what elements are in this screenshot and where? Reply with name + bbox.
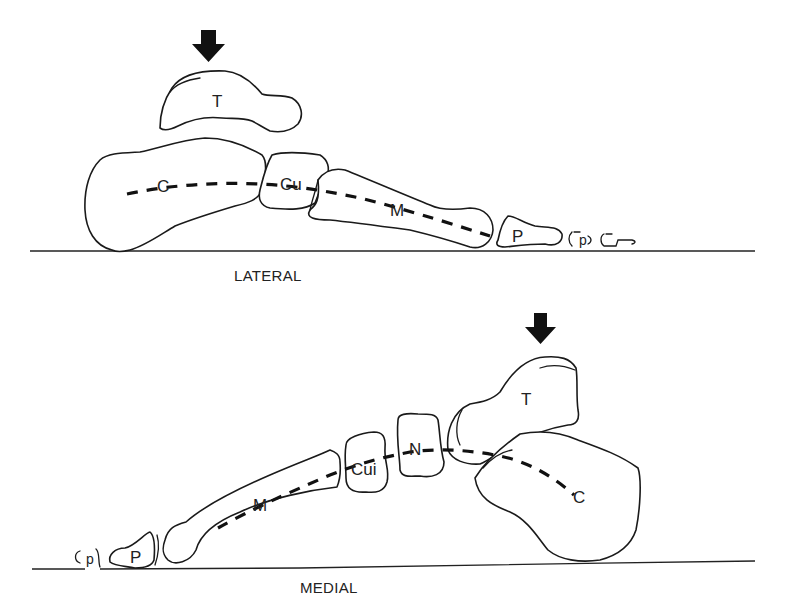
- lateral-label-metatarsal: M: [390, 201, 404, 220]
- medial-load-arrow-icon: [525, 313, 556, 344]
- lateral-label-distal-phalanges: p: [579, 232, 587, 248]
- medial-label-talus: T: [521, 390, 531, 409]
- lateral-panel: T C Cu M P p LATERAL: [30, 30, 755, 284]
- medial-caption: MEDIAL: [300, 579, 358, 596]
- medial-label-cuneiform: Cui: [351, 460, 377, 479]
- lateral-label-cuboid: Cu: [280, 175, 302, 194]
- lateral-distal-phalanx: [601, 234, 635, 246]
- medial-label-proximal-phalanx: P: [130, 548, 141, 567]
- lateral-label-calcaneus: C: [157, 177, 169, 196]
- foot-arch-diagram: T C Cu M P p LATERAL T C: [0, 0, 786, 615]
- medial-label-calcaneus: C: [573, 488, 585, 507]
- lateral-calcaneus: [85, 138, 266, 252]
- medial-label-distal-phalanges: p: [86, 551, 94, 567]
- lateral-label-talus: T: [212, 92, 222, 111]
- lateral-talus: [160, 71, 301, 132]
- medial-joint-mtp: [155, 535, 158, 565]
- medial-metatarsal: [163, 450, 340, 563]
- lateral-caption: LATERAL: [234, 267, 302, 284]
- medial-panel: T C N Cui M P p MEDIAL: [32, 313, 755, 596]
- medial-label-navicular: N: [409, 440, 421, 459]
- lateral-proximal-phalanx: [497, 216, 562, 247]
- medial-label-metatarsal: M: [253, 496, 267, 515]
- medial-calcaneus: [475, 432, 640, 561]
- lateral-load-arrow-icon: [192, 30, 225, 62]
- lateral-label-proximal-phalanx: P: [512, 227, 523, 246]
